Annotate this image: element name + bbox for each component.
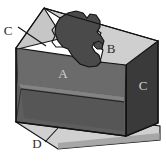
label-c-left: C (4, 23, 13, 38)
label-a: A (58, 66, 68, 81)
box-diagram-svg: A B C C D (0, 0, 166, 164)
label-b: B (107, 41, 116, 56)
box-diagram-figure: A B C C D (0, 0, 166, 164)
label-d: D (32, 136, 41, 151)
label-c-right: C (139, 78, 148, 93)
